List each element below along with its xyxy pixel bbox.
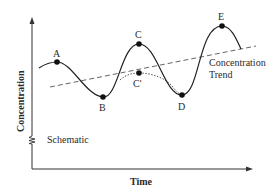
- y-axis-title: Concentration: [16, 70, 26, 132]
- x-axis-title: Time: [130, 177, 152, 187]
- point-c-marker: [136, 41, 142, 47]
- point-b-label: B: [99, 103, 106, 113]
- trend-label-line2: Trend: [209, 70, 233, 80]
- x-axis: [32, 167, 253, 172]
- x-axis-arrow-icon: [246, 167, 253, 172]
- trend-label-line1: Concentration: [209, 58, 266, 68]
- schematic-label: Schematic: [47, 135, 89, 145]
- point-c-label: C: [135, 30, 142, 40]
- concentration-trend-diagram: A B C C' D E Concentration Trend Schemat…: [0, 0, 280, 191]
- point-a-label: A: [53, 49, 60, 59]
- alt-path-c-prime: [120, 73, 182, 95]
- y-axis-arrow-icon: [30, 17, 35, 24]
- point-d-marker: [179, 92, 185, 98]
- point-e-marker: [219, 23, 225, 29]
- point-c-prime-marker: [136, 70, 142, 76]
- y-axis: [29, 17, 35, 169]
- point-c-prime-label: C': [133, 79, 141, 89]
- point-a-marker: [54, 59, 60, 65]
- point-b-marker: [100, 94, 106, 100]
- point-d-label: D: [178, 102, 185, 112]
- axis-break-icon: [29, 136, 35, 144]
- point-e-label: E: [218, 12, 224, 22]
